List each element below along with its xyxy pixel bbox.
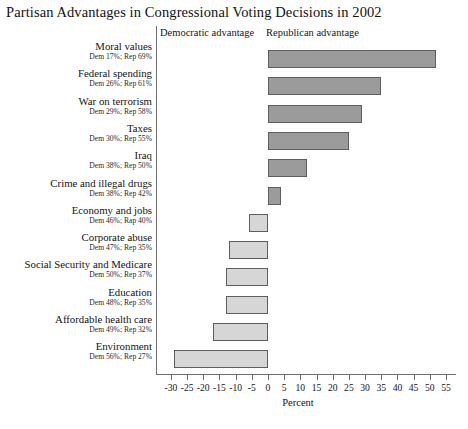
x-tick <box>333 375 334 380</box>
bar <box>268 77 381 95</box>
x-tick <box>268 375 269 380</box>
category-name: Affordable health care <box>0 313 152 325</box>
category-row: Affordable health careDem 49%; Rep 32% <box>0 313 152 334</box>
x-tick-label: -30 <box>165 382 178 393</box>
category-sublabel: Dem 26%; Rep 61% <box>0 79 152 88</box>
x-tick-label: 50 <box>425 382 435 393</box>
bar <box>213 323 268 341</box>
category-name: Economy and jobs <box>0 204 152 216</box>
x-tick-label: 25 <box>344 382 354 393</box>
x-tick <box>381 375 382 380</box>
x-tick <box>219 375 220 380</box>
category-sublabel: Dem 47%; Rep 35% <box>0 243 152 252</box>
bar <box>268 105 362 123</box>
bar <box>229 241 268 259</box>
x-tick-label: 20 <box>328 382 338 393</box>
category-row: Social Security and MedicareDem 50%; Rep… <box>0 258 152 279</box>
x-tick <box>236 375 237 380</box>
x-tick-label: 15 <box>312 382 322 393</box>
bar <box>268 50 436 68</box>
x-tick <box>446 375 447 380</box>
category-name: Taxes <box>0 122 152 134</box>
category-name: Iraq <box>0 149 152 161</box>
category-row: EducationDem 48%; Rep 35% <box>0 286 152 307</box>
bars-layer <box>156 26 468 375</box>
bar <box>249 214 268 232</box>
plot-area: -30-25-20-15-10-50510152025303540455055 … <box>156 26 468 375</box>
x-tick <box>187 375 188 380</box>
category-name: Crime and illegal drugs <box>0 177 152 189</box>
x-tick-label: 10 <box>296 382 306 393</box>
category-row: Moral valuesDem 17%; Rep 69% <box>0 40 152 61</box>
category-row: Corporate abuseDem 47%; Rep 35% <box>0 231 152 252</box>
category-row: EnvironmentDem 56%; Rep 27% <box>0 340 152 361</box>
x-tick-label: 5 <box>282 382 287 393</box>
x-tick <box>203 375 204 380</box>
x-tick <box>252 375 253 380</box>
category-row: Crime and illegal drugsDem 38%; Rep 42% <box>0 177 152 198</box>
category-name: Environment <box>0 340 152 352</box>
bar <box>174 350 268 368</box>
category-name: Social Security and Medicare <box>0 258 152 270</box>
x-tick <box>171 375 172 380</box>
category-row: Federal spendingDem 26%; Rep 61% <box>0 67 152 88</box>
bar <box>268 159 307 177</box>
bar <box>268 187 281 205</box>
bar <box>226 296 268 314</box>
x-tick <box>430 375 431 380</box>
x-tick-label: 35 <box>376 382 386 393</box>
x-tick-label: 45 <box>409 382 419 393</box>
x-tick <box>414 375 415 380</box>
x-tick <box>317 375 318 380</box>
x-tick-label: -15 <box>213 382 226 393</box>
category-sublabel: Dem 38%; Rep 42% <box>0 189 152 198</box>
x-tick-label: 0 <box>266 382 271 393</box>
category-name: War on terrorism <box>0 95 152 107</box>
x-tick-label: -20 <box>197 382 210 393</box>
category-sublabel: Dem 48%; Rep 35% <box>0 298 152 307</box>
category-row: IraqDem 38%; Rep 50% <box>0 149 152 170</box>
category-sublabel: Dem 29%; Rep 58% <box>0 107 152 116</box>
x-tick <box>349 375 350 380</box>
category-sublabel: Dem 46%; Rap 40% <box>0 216 152 225</box>
x-tick-label: 30 <box>360 382 370 393</box>
category-sublabel: Dem 50%; Rep 37% <box>0 270 152 279</box>
x-tick-label: -25 <box>181 382 194 393</box>
x-tick <box>300 375 301 380</box>
category-sublabel: Dem 49%; Rep 32% <box>0 325 152 334</box>
category-row: TaxesDem 30%; Rep 55% <box>0 122 152 143</box>
x-axis-title-text: Percent <box>282 397 314 408</box>
x-tick <box>284 375 285 380</box>
category-sublabel: Dem 17%; Rep 69% <box>0 52 152 61</box>
category-name: Federal spending <box>0 67 152 79</box>
x-tick-label: 55 <box>441 382 451 393</box>
category-row: Economy and jobsDem 46%; Rap 40% <box>0 204 152 225</box>
category-name: Moral values <box>0 40 152 52</box>
category-sublabel: Dem 30%; Rep 55% <box>0 134 152 143</box>
x-axis-title: Percent <box>156 397 468 408</box>
bar <box>268 132 349 150</box>
category-row: War on terrorismDem 29%; Rep 58% <box>0 95 152 116</box>
x-tick-label: -5 <box>248 382 256 393</box>
category-sublabel: Dem 56%; Rep 27% <box>0 352 152 361</box>
category-name: Education <box>0 286 152 298</box>
category-sublabel: Dem 38%; Rep 50% <box>0 161 152 170</box>
x-tick-label: 40 <box>393 382 403 393</box>
x-tick <box>365 375 366 380</box>
bar <box>226 268 268 286</box>
category-name: Corporate abuse <box>0 231 152 243</box>
x-tick <box>397 375 398 380</box>
x-tick-label: -10 <box>229 382 242 393</box>
